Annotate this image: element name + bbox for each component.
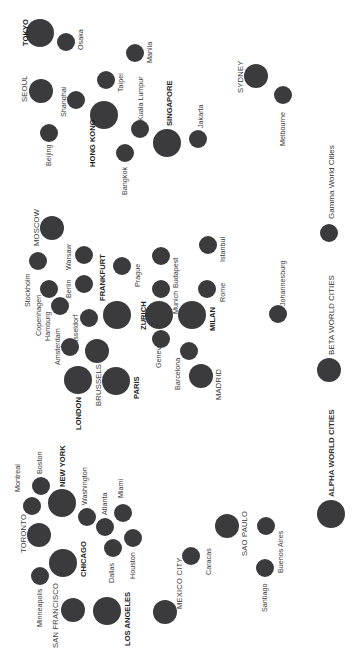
- city-marker-sydney: [244, 64, 268, 88]
- city-label-frankfurt: FRANKFURT: [99, 254, 107, 301]
- city-marker-berlin: [75, 275, 93, 293]
- legend-label-gamma: Gamma World Cities: [327, 145, 336, 219]
- city-label-moscow: MOSCOW: [33, 209, 41, 246]
- legend-marker-alpha: [317, 500, 345, 528]
- city-marker-budapest: [152, 247, 170, 265]
- city-label-bangkok: Bangkok: [121, 167, 128, 195]
- city-marker-warsaw: [75, 246, 93, 264]
- city-marker-hamburg: [51, 297, 69, 315]
- city-label-manila: Manila: [146, 42, 153, 63]
- city-marker-frankfurt: [103, 301, 131, 329]
- city-label-toronto: TORONTO: [20, 514, 28, 553]
- city-label-istanbul: Istanbul: [219, 237, 226, 262]
- city-marker-paris: [102, 367, 130, 395]
- city-marker-montreal: [23, 497, 41, 515]
- city-label-san-francisco: SAN FRANCISCO: [52, 583, 60, 648]
- city-marker-osaka: [57, 33, 75, 51]
- city-label-new-york: NEW YORK: [59, 445, 67, 487]
- city-marker-brussels: [85, 339, 109, 363]
- city-marker-buenos-aires: [257, 517, 275, 535]
- city-label-stockholm: Stockholm: [24, 273, 31, 307]
- city-marker-beijing: [40, 124, 58, 142]
- city-label-shanghai: Shanghai: [60, 87, 67, 117]
- city-label-caracas: Caracas: [205, 548, 212, 575]
- city-label-barcelona: Barcelona: [174, 358, 181, 390]
- city-marker-stockholm: [29, 252, 47, 270]
- city-marker-miami: [114, 504, 132, 522]
- city-marker-mexico-city: [153, 600, 177, 624]
- city-label-hamburg: Hamburg: [44, 311, 51, 341]
- city-label-berlin: Berlin: [65, 280, 72, 298]
- city-label-miami: Miami: [117, 479, 124, 498]
- city-label-geneva: Geneva: [155, 343, 162, 368]
- city-label-chicago: CHICAGO: [80, 541, 88, 577]
- world-cities-diagram: Gamma World CitiesBETA WORLD CITIESALPHA…: [0, 0, 355, 649]
- city-marker-zurich: [145, 301, 173, 329]
- city-label-washington: Washington: [81, 467, 88, 505]
- city-label-dallas: Dallas: [108, 563, 115, 583]
- city-label-taipei: Taipei: [117, 73, 124, 92]
- city-marker-sao-paulo: [215, 514, 239, 538]
- city-label-sao-paulo: SAO PAULO: [241, 511, 249, 556]
- city-marker-madrid: [189, 364, 213, 388]
- city-marker-houston: [124, 529, 142, 547]
- city-marker-moscow: [40, 216, 64, 240]
- city-marker-bangkok: [116, 144, 134, 162]
- city-marker-chicago: [49, 549, 77, 577]
- city-label-copenhagen: Copenhagen: [35, 295, 42, 336]
- city-label-amsterdam: Amsterdam: [54, 328, 61, 365]
- legend-marker-gamma: [320, 224, 338, 242]
- city-marker-amsterdam: [61, 338, 79, 356]
- city-label-rome: Rome: [219, 283, 226, 302]
- city-label-budapest: Budapest: [172, 258, 179, 288]
- city-label-london: LONDON: [75, 397, 83, 430]
- city-label-los-angeles: LOS ANGELES: [124, 592, 132, 646]
- city-marker-shanghai: [67, 91, 85, 109]
- city-label-osaka: Osaka: [77, 29, 84, 50]
- city-label-tokyo: TOKYO: [22, 19, 30, 46]
- city-marker-tokyo: [26, 19, 54, 47]
- city-marker-seoul: [29, 79, 53, 103]
- city-marker-singapore: [153, 129, 181, 157]
- city-marker-dallas: [104, 539, 122, 557]
- city-label-santiago: Santiago: [261, 584, 268, 612]
- city-label-warsaw: Warsaw: [65, 244, 72, 270]
- city-marker-new-york: [48, 489, 76, 517]
- city-marker-atlanta: [96, 518, 114, 536]
- city-label-madrid: MADRID: [215, 369, 223, 400]
- city-label-boston: Boston: [36, 452, 43, 474]
- city-marker-boston: [32, 477, 50, 495]
- city-marker-munich: [152, 280, 170, 298]
- city-label-houston: Houston: [129, 552, 136, 579]
- city-label-mexico-city: MEXICO CITY: [176, 557, 184, 609]
- city-marker-jakarta: [189, 130, 207, 148]
- legend-label-alpha: ALPHA WORLD CITIES: [327, 409, 336, 497]
- city-label-johannesburg: Johannesburg: [279, 260, 286, 306]
- city-label-melbourne: Melbourne: [279, 112, 286, 146]
- city-label-hong-kong: HONG KONG: [89, 119, 97, 167]
- city-marker-dusseldorf: [80, 309, 98, 327]
- city-label-kuala-lumpur: Kuala Lumpur: [137, 76, 144, 121]
- city-marker-prague: [113, 257, 131, 275]
- city-marker-manila: [126, 44, 144, 62]
- city-marker-santiago: [256, 559, 274, 577]
- city-label-minneapolis: Minneapolis: [36, 589, 43, 627]
- city-marker-melbourne: [274, 86, 292, 104]
- city-marker-london: [64, 366, 92, 394]
- city-label-buenos-aires: Buenos Aires: [277, 531, 284, 573]
- city-label-brussels: BRUSSELS: [95, 364, 103, 406]
- city-marker-istanbul: [199, 236, 217, 254]
- city-label-jakarta: Jakarta: [197, 104, 204, 128]
- city-marker-taipei: [97, 71, 115, 89]
- city-marker-washington: [78, 508, 96, 526]
- city-marker-caracas: [182, 547, 200, 565]
- city-marker-rome: [198, 280, 216, 298]
- city-label-singapore: SINGAPORE: [166, 80, 174, 126]
- city-marker-johannesburg: [269, 305, 287, 323]
- city-label-atlanta: Atlanta: [101, 493, 108, 515]
- city-label-montreal: Montreal: [14, 464, 21, 492]
- city-marker-san-francisco: [61, 598, 85, 622]
- legend-label-beta: BETA WORLD CITIES: [327, 275, 336, 355]
- city-label-beijing: Beijing: [45, 144, 52, 166]
- city-label-zurich: ZURICH: [140, 301, 148, 330]
